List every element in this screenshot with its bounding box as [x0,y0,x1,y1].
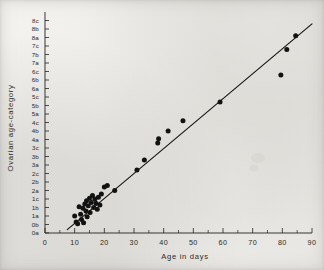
data-point [81,220,86,225]
data-point [142,157,147,162]
y-tick-label: 2c [32,170,39,177]
data-point [156,136,161,141]
data-point [218,100,223,105]
data-point [284,47,289,52]
y-tick-label: 2b [32,178,40,185]
y-tick-label: 0a [32,229,40,236]
y-tick-label: 1c [32,195,39,202]
data-point [134,168,139,173]
y-tick-label: 5a [32,110,40,117]
data-point [105,183,110,188]
y-tick-label: 3a [32,161,40,168]
x-tick-label: 50 [189,238,198,247]
data-point [75,221,80,226]
data-point [78,212,83,217]
y-tick-label: 8b [32,25,40,32]
y-tick-label: 7b [32,51,40,58]
y-tick-label: 7a [32,59,40,66]
x-tick-label: 40 [159,238,168,247]
x-axis-label: Age in days [161,252,208,261]
y-tick-label: 5b [32,102,40,109]
y-tick-label: 3c [32,144,39,151]
y-tick-label: 2a [32,187,40,194]
y-tick-label: 3b [32,153,40,160]
y-tick-label: 1b [32,204,40,211]
x-tick-label: 60 [219,238,228,247]
y-tick-label: 8c [32,17,39,24]
data-point [85,214,90,219]
data-point [166,129,171,134]
x-tick-label: 0 [43,238,47,247]
x-tick-label: 10 [70,238,79,247]
plot-svg: Ovarian age-category 0a0b1a1b1c2a2b2c3a3… [0,0,324,270]
data-point [112,188,117,193]
y-tick-label: 6a [32,85,40,92]
y-tick-label: 6b [32,76,40,83]
y-tick-label: 4b [32,127,40,134]
x-tick-label: 30 [130,238,139,247]
y-tick-label: 6c [32,68,39,75]
scatter-plot-figure: Ovarian age-category 0a0b1a1b1c2a2b2c3a3… [0,0,324,270]
y-axis-ticks: 0a0b1a1b1c2a2b2c3a3b3c4a4b4c5a5b5c6a6b6c… [32,17,49,237]
data-point [180,118,185,123]
y-tick-label: 1a [32,212,40,219]
x-tick-label: 70 [248,238,257,247]
data-point [97,202,102,207]
y-axis-label: Ovarian age-category [6,85,15,172]
scan-smudge [249,153,265,172]
y-tick-label: 0b [32,221,40,228]
data-point [155,140,160,145]
data-point [293,33,298,38]
x-tick-label: 20 [100,238,109,247]
y-tick-label: 7c [32,42,39,49]
data-point [72,214,77,219]
y-tick-label: 4c [32,119,39,126]
data-point [95,207,100,212]
y-tick-label: 4a [32,136,40,143]
data-point [88,210,93,215]
x-tick-label: 80 [278,238,287,247]
y-tick-label: 8a [32,34,40,41]
data-point [99,191,104,196]
data-point [278,72,283,77]
y-tick-label: 5c [32,93,39,100]
x-axis-ticks: 0102030405060708090 [43,228,317,247]
x-tick-label: 90 [308,238,317,247]
regression-line [67,24,312,230]
